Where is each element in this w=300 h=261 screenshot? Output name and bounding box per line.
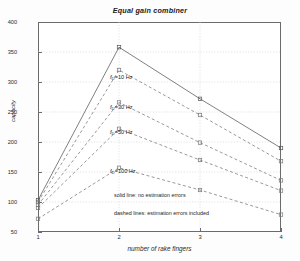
annotation-value: =10 Hz (115, 74, 133, 80)
x-tick-mark (281, 228, 282, 232)
y-tick-mark (38, 232, 42, 233)
y-tick-mark (38, 22, 42, 23)
series-1 (36, 68, 282, 203)
y-tick-label: 100 (0, 199, 17, 205)
y-tick-label: 250 (0, 109, 17, 115)
annotation-fd-50: fD=50 Hz (110, 129, 133, 136)
chart-figure: Equal gain combiner capacity 40035030025… (0, 0, 300, 261)
legend-solid-line: solid line: no estimation errors (114, 192, 186, 198)
series-2 (36, 101, 282, 207)
x-tick-mark (119, 228, 120, 232)
y-tick-label: 50 (0, 229, 17, 235)
x-tick-label: 4 (269, 234, 293, 240)
y-tick-label: 150 (0, 169, 17, 175)
data-point-marker (279, 213, 282, 216)
y-tick-label: 350 (0, 49, 17, 55)
y-tick-label: 300 (0, 79, 17, 85)
y-tick-mark (38, 52, 42, 53)
y-tick-mark (38, 82, 42, 83)
chart-title: Equal gain combiner (0, 6, 300, 15)
legend-dashed-lines: dashed lines: estimation errors included (114, 210, 209, 216)
x-axis-label: number of rake fingers (38, 245, 281, 252)
series-0 (36, 46, 282, 202)
y-tick-mark (38, 112, 42, 113)
annotation-value: =50 Hz (115, 129, 133, 135)
annotation-value: =30 Hz (115, 104, 133, 110)
y-tick-mark (38, 172, 42, 173)
x-tick-label: 2 (107, 234, 131, 240)
y-tick-mark (38, 202, 42, 203)
chart-canvas (38, 22, 281, 232)
gridlines (38, 22, 281, 232)
x-tick-label: 1 (26, 234, 50, 240)
x-tick-mark (200, 228, 201, 232)
y-tick-label: 400 (0, 19, 17, 25)
x-tick-mark (38, 228, 39, 232)
annotation-value: =100 Hz (115, 168, 136, 174)
annotation-fd-30: fD=30 Hz (110, 104, 133, 111)
annotation-fd-10: fD=10 Hz (110, 74, 133, 81)
annotation-fd-100: fD=100 Hz (110, 168, 136, 175)
x-tick-label: 3 (188, 234, 212, 240)
y-tick-label: 200 (0, 139, 17, 145)
y-tick-mark (38, 142, 42, 143)
